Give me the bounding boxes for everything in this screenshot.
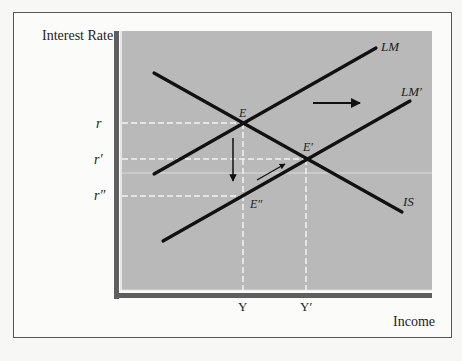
x-axis-label: Income (393, 314, 435, 329)
tick-Y: Y (238, 299, 248, 314)
is-lm-diagram: Interest Rate Income r r′ r″ Y Y′ LM LM′… (0, 0, 462, 361)
label-e: E (238, 106, 247, 120)
y-axis-label: Interest Rate (42, 28, 113, 43)
y-axis (114, 31, 119, 299)
tick-Y-prime: Y′ (300, 299, 312, 314)
plot-area (120, 31, 432, 291)
tick-r-double: r″ (94, 188, 105, 203)
label-e-prime: E′ (302, 140, 313, 154)
label-lm: LM (380, 39, 400, 54)
tick-r-prime: r′ (94, 152, 103, 167)
tick-r: r (96, 116, 102, 131)
x-axis (114, 293, 432, 298)
label-lm-prime: LM′ (400, 84, 422, 99)
label-is: IS (402, 194, 414, 209)
label-e-double: E″ (249, 197, 263, 211)
